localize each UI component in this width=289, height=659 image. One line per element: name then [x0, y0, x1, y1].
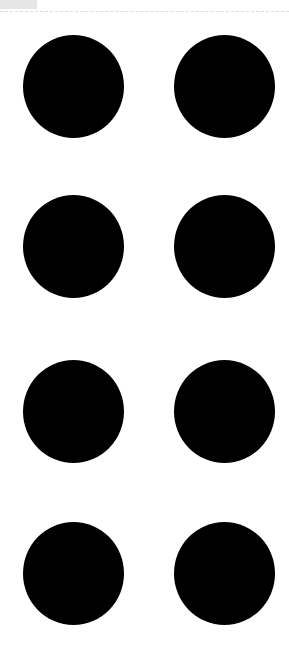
dot-grid: [0, 0, 289, 659]
dot-r1-c2: [174, 35, 275, 138]
dot-r2-c2: [174, 195, 275, 298]
dot-r3-c1: [23, 360, 124, 463]
dot-r4-c1: [23, 522, 124, 625]
dot-r4-c2: [174, 522, 275, 625]
dot-r2-c1: [23, 195, 124, 298]
dot-r1-c1: [23, 35, 124, 138]
dot-r3-c2: [174, 360, 275, 463]
